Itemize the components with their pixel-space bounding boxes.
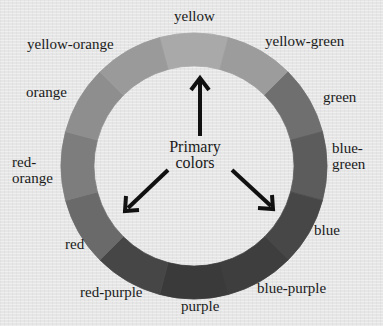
- label-red-orange: red- orange: [12, 154, 53, 186]
- label-green: green: [323, 89, 356, 105]
- primary-colors-label: Primary colors: [150, 139, 240, 171]
- label-blue-purple: blue-purple: [257, 280, 326, 296]
- label-yellow-green: yellow-green: [265, 33, 344, 49]
- segment-blue-green: [291, 132, 327, 201]
- label-red: red: [65, 236, 84, 252]
- label-blue: blue: [314, 222, 340, 238]
- label-purple: purple: [181, 298, 219, 314]
- label-yellow-orange: yellow-orange: [27, 36, 114, 52]
- label-red-orange-line1: red-: [12, 154, 53, 170]
- label-blue-green-line2: green: [332, 156, 365, 172]
- label-red-purple: red-purple: [80, 284, 142, 300]
- label-blue-green-line1: blue-: [332, 140, 365, 156]
- segment-red-orange: [61, 132, 97, 201]
- label-orange: orange: [26, 84, 67, 100]
- label-yellow: yellow: [174, 8, 215, 24]
- arrow-to-blue-icon: [232, 170, 273, 209]
- arrow-to-yellow-icon: [191, 78, 209, 136]
- segment-purple: [160, 263, 229, 299]
- arrow-to-red-icon: [125, 170, 168, 211]
- segment-yellow: [160, 33, 229, 69]
- label-blue-green: blue- green: [332, 140, 365, 172]
- primary-colors-line2: colors: [150, 155, 240, 171]
- label-red-orange-line2: orange: [12, 170, 53, 186]
- primary-colors-line1: Primary: [150, 139, 240, 155]
